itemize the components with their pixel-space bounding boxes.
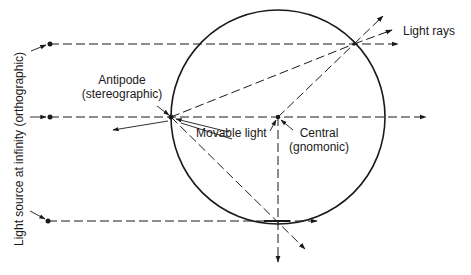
- light-source-dot-middle: [48, 115, 53, 120]
- central-label-line1: Central: [282, 126, 356, 140]
- light-source-dot-bottom: [46, 219, 51, 224]
- light-source-leader-top: [31, 45, 46, 51]
- light-source-leader-bottom: [30, 211, 45, 219]
- gnomonic-ray: [278, 44, 354, 117]
- light-ray-out-2: [354, 30, 392, 44]
- antipode-label-line2: (stereographic): [72, 87, 172, 101]
- light-source-label: Light source at infinity (orthographic): [12, 52, 26, 246]
- antipode-label-line1: Antipode: [72, 73, 172, 87]
- light-ray-out-1: [354, 16, 383, 44]
- central-label: Central (gnomonic): [282, 126, 356, 154]
- central-label-line2: (gnomonic): [282, 140, 356, 154]
- movable-light-arrow: [113, 121, 168, 130]
- antipode-label: Antipode (stereographic): [72, 73, 172, 101]
- movable-light-label: Movable light: [196, 126, 267, 140]
- central-leader-left: [270, 120, 276, 131]
- projection-point-dot: [352, 42, 356, 46]
- light-source-dot-top: [48, 42, 53, 47]
- light-rays-label: Light rays: [403, 24, 455, 38]
- antipode-leader: [157, 106, 169, 115]
- central-dot: [276, 115, 281, 120]
- stereographic-ray: [171, 44, 354, 117]
- antipode-dot: [169, 115, 174, 120]
